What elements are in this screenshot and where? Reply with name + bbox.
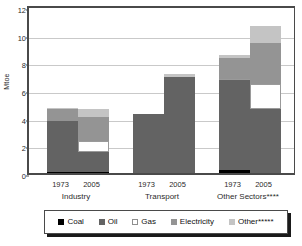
legend-item: Gas — [132, 218, 156, 226]
y-axis-tick-label: 12 — [18, 6, 26, 15]
y-axis-title: Mtoe — [3, 62, 10, 102]
bar-segment-electricity — [47, 109, 78, 121]
bar-segment-electricity — [78, 117, 109, 141]
bar — [164, 74, 195, 173]
y-axis-tick-mark — [26, 176, 29, 177]
legend-label: Electricity — [180, 218, 214, 226]
bar-segment-electricity — [219, 58, 250, 79]
bar-chart: Mtoe 121086420 197320051973200519732005I… — [0, 0, 302, 246]
legend-swatch-icon — [99, 219, 105, 225]
bar-segment-other — [164, 74, 195, 77]
legend-item: Other***** — [229, 218, 274, 226]
x-axis-group-label: Transport — [145, 192, 179, 201]
bar-segment-oil — [219, 80, 250, 170]
legend-swatch-icon — [229, 219, 235, 225]
y-axis-tick-mark — [26, 93, 29, 94]
legend-label: Other***** — [238, 218, 274, 226]
bar-segment-coal — [219, 170, 250, 173]
x-axis-year-label: 2005 — [255, 180, 272, 189]
plot-area: 121086420 — [27, 6, 295, 175]
bar-segment-gas — [78, 141, 109, 151]
bar-segment-oil — [78, 152, 109, 172]
bar — [78, 109, 109, 173]
legend-label: Coal — [67, 218, 83, 226]
y-axis-tick-label: 8 — [22, 61, 26, 70]
legend-label: Oil — [108, 218, 118, 226]
y-axis-tick-mark — [26, 120, 29, 121]
legend-item: Coal — [58, 218, 83, 226]
y-axis-tick-label: 4 — [22, 116, 26, 125]
bar-segment-gas — [250, 84, 281, 109]
bar-segment-oil — [133, 114, 164, 173]
bar-segment-other — [250, 26, 281, 43]
bar-segment-oil — [250, 109, 281, 173]
bar — [219, 55, 250, 173]
x-axis-year-label: 2005 — [169, 180, 186, 189]
legend-swatch-icon — [58, 219, 64, 225]
x-axis-group-label: Other Sectors**** — [217, 192, 279, 201]
y-axis-tick-mark — [26, 65, 29, 66]
bar-segment-electricity — [250, 43, 281, 85]
y-axis-tick-mark — [26, 10, 29, 11]
chart-legend: CoalOilGasElectricityOther***** — [44, 210, 288, 234]
bar — [47, 108, 78, 173]
x-axis-year-label: 2005 — [83, 180, 100, 189]
bar-segment-oil — [47, 121, 78, 171]
legend-label: Gas — [141, 218, 156, 226]
x-axis-year-label: 1973 — [138, 180, 155, 189]
legend-item: Oil — [99, 218, 118, 226]
bar — [250, 26, 281, 173]
y-axis-tick-mark — [26, 37, 29, 38]
bar-segment-other — [47, 108, 78, 109]
legend-item: Electricity — [171, 218, 214, 226]
bar-segment-coal — [78, 172, 109, 173]
bar-segment-other — [78, 109, 109, 117]
bar — [133, 114, 164, 173]
y-axis-tick-label: 2 — [22, 144, 26, 153]
legend-swatch-icon — [132, 219, 138, 225]
x-axis-year-label: 1973 — [224, 180, 241, 189]
x-axis-year-label: 1973 — [52, 180, 69, 189]
y-axis-tick-mark — [26, 148, 29, 149]
y-axis-tick-label: 0 — [22, 172, 26, 181]
bar-segment-oil — [164, 77, 195, 173]
y-axis-tick-label: 10 — [18, 33, 26, 42]
x-axis-group-label: Industry — [62, 192, 90, 201]
legend-swatch-icon — [171, 219, 177, 225]
bar-segment-other — [219, 55, 250, 58]
y-axis-tick-label: 6 — [22, 89, 26, 98]
bar-segment-coal — [47, 172, 78, 173]
